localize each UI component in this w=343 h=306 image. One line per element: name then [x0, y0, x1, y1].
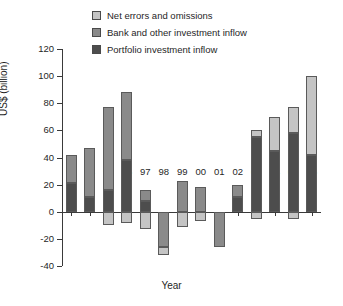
legend-item-label: Bank and other investment inflow [107, 28, 247, 37]
legend-swatch-icon [92, 28, 101, 37]
y-tick-mark [57, 212, 62, 213]
y-tick-label: 100 [38, 71, 54, 81]
y-tick-label: 80 [43, 99, 54, 109]
x-tick-mark [238, 212, 239, 216]
x-tick-mark [275, 212, 276, 216]
y-axis-line [62, 49, 63, 266]
y-tick-label: 40 [43, 153, 54, 163]
x-tick-mark [71, 212, 72, 216]
bar-segment [177, 181, 188, 212]
bar-segment [306, 76, 317, 155]
bar-segment [288, 107, 299, 133]
x-axis-zero-line [62, 212, 321, 213]
legend-item: Bank and other investment inflow [92, 25, 247, 40]
y-tick-label: -20 [40, 234, 54, 244]
legend-item: Net errors and omissions [92, 8, 247, 23]
bar-segment [103, 212, 114, 226]
bar-segment [251, 130, 262, 137]
bar-segment [269, 117, 280, 151]
y-tick-label: 60 [43, 126, 54, 136]
y-tick-mark [57, 103, 62, 104]
bar-segment [177, 212, 188, 227]
y-tick-label: 0 [49, 207, 54, 217]
x-tick-label: 99 [173, 167, 192, 177]
bar-segment [251, 137, 262, 212]
bar-segment [121, 92, 132, 160]
bar-segment [251, 212, 262, 219]
bar-segment [140, 212, 151, 230]
x-tick-label: 01 [210, 167, 229, 177]
x-tick-label: 98 [155, 167, 174, 177]
bar-segment [121, 160, 132, 212]
bar-segment [158, 247, 169, 255]
y-axis-title: US$ (billion) [0, 62, 9, 116]
x-tick-mark [312, 212, 313, 216]
bar-segment [232, 197, 243, 212]
x-tick-label: 02 [229, 167, 248, 177]
x-tick-label: 00 [192, 167, 211, 177]
y-tick-mark [57, 76, 62, 77]
y-tick-mark [57, 239, 62, 240]
x-axis-title: Year [0, 280, 343, 291]
x-tick-mark [90, 212, 91, 216]
legend-swatch-icon [92, 11, 101, 20]
legend-item-label: Net errors and omissions [107, 11, 213, 20]
bar-segment [288, 133, 299, 212]
bar-segment [66, 183, 77, 211]
y-tick-mark [57, 158, 62, 159]
bar-segment [103, 107, 114, 190]
bar-segment [66, 155, 77, 183]
bar-segment [158, 212, 169, 247]
y-tick-label: -40 [40, 261, 54, 271]
bar-segment [103, 190, 114, 212]
y-tick-mark [57, 130, 62, 131]
plot-area: 120100806040200-20-409394959697989900010… [62, 49, 321, 266]
y-tick-mark [57, 185, 62, 186]
y-tick-label: 120 [38, 44, 54, 54]
bar-segment [140, 201, 151, 212]
bar-segment [288, 212, 299, 219]
chart-container: Net errors and omissionsBank and other i… [0, 0, 343, 306]
bar-segment [232, 185, 243, 197]
bar-segment [195, 187, 206, 211]
bar-segment [84, 197, 95, 212]
bar-segment [121, 212, 132, 223]
x-tick-label: 97 [136, 167, 155, 177]
bar-segment [84, 148, 95, 197]
bar-segment [195, 212, 206, 221]
bar-segment [140, 190, 151, 201]
bar-segment [214, 212, 225, 247]
y-tick-label: 20 [43, 180, 54, 190]
bar-segment [269, 151, 280, 212]
bar-segment [306, 155, 317, 212]
y-tick-mark [57, 266, 62, 267]
y-tick-mark [57, 49, 62, 50]
